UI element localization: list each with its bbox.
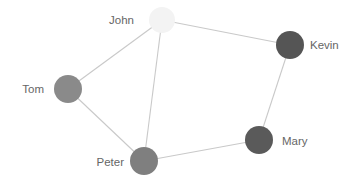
network-graph: JohnKevinTomPeterMary <box>0 0 360 187</box>
edge-peter-mary <box>144 140 259 161</box>
node-kevin: Kevin <box>276 31 339 59</box>
node-label: John <box>109 14 134 26</box>
node-label: Kevin <box>310 39 339 51</box>
node-circle <box>130 147 158 175</box>
nodes-layer: JohnKevinTomPeterMary <box>22 7 339 175</box>
node-label: Tom <box>22 83 44 95</box>
edge-john-tom <box>68 20 162 89</box>
node-john: John <box>109 7 175 33</box>
node-label: Peter <box>97 156 125 168</box>
node-mary: Mary <box>245 126 308 154</box>
node-circle <box>245 126 273 154</box>
node-tom: Tom <box>22 75 82 103</box>
edge-john-kevin <box>162 20 290 45</box>
node-peter: Peter <box>97 147 159 175</box>
node-circle <box>149 7 175 33</box>
node-circle <box>276 31 304 59</box>
edge-john-peter <box>144 20 162 161</box>
edge-tom-peter <box>68 89 144 161</box>
edge-mary-kevin <box>259 45 290 140</box>
node-circle <box>54 75 82 103</box>
node-label: Mary <box>282 135 308 147</box>
